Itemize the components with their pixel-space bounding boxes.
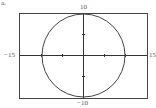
y-max-label: 10 bbox=[80, 4, 87, 11]
x-max-label: 15 bbox=[149, 52, 156, 59]
x-min-label: −15 bbox=[4, 52, 15, 59]
y-min-label: −10 bbox=[77, 100, 88, 107]
chart-plot bbox=[0, 0, 156, 108]
